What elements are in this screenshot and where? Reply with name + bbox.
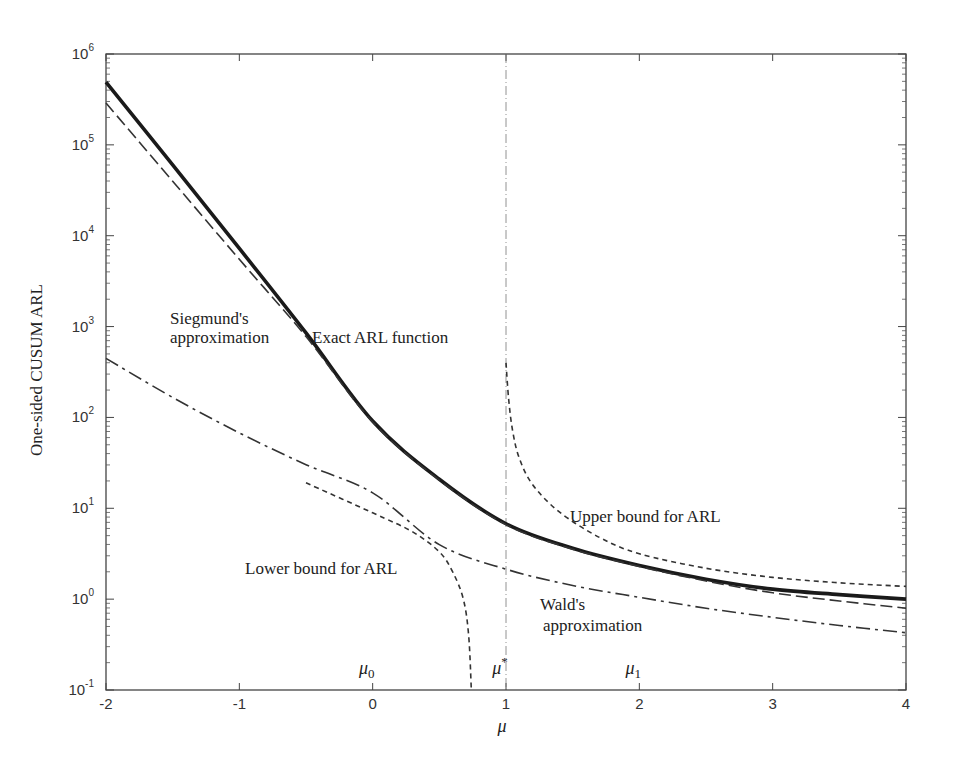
- y-tick-label: 102: [72, 405, 95, 425]
- plot-axes: -2-10123410-1100101102103104105106: [68, 42, 910, 712]
- curve-annotation: approximation: [543, 616, 643, 635]
- curve-annotation: Exact ARL function: [312, 328, 449, 347]
- y-axis-label: One-sided CUSUM ARL: [27, 284, 46, 456]
- y-tick-label: 105: [72, 133, 95, 153]
- x-tick-label: 2: [635, 695, 643, 712]
- y-tick-label: 104: [72, 224, 95, 244]
- x-tick-label: -2: [99, 695, 112, 712]
- curve-annotation: Lower bound for ARL: [245, 559, 398, 578]
- y-tick-label: 106: [72, 42, 95, 62]
- y-tick-label: 10-1: [68, 678, 94, 698]
- x-tick-label: 4: [902, 695, 910, 712]
- x-tick-label: 0: [368, 695, 376, 712]
- x-axis-label: μ: [496, 716, 506, 736]
- mu-marker-label: μ0: [358, 658, 375, 681]
- x-tick-label: 1: [502, 695, 510, 712]
- y-tick-label: 100: [72, 587, 95, 607]
- curve-annotation: approximation: [170, 328, 270, 347]
- curve-annotation: Wald's: [540, 595, 585, 614]
- lower-bound-for-arl-curve: [306, 483, 471, 690]
- x-tick-label: -1: [233, 695, 246, 712]
- mu-marker-label: μ1: [625, 658, 642, 681]
- mu-marker-label: μ*: [491, 654, 508, 678]
- curve-annotation: Upper bound for ARL: [570, 507, 721, 526]
- y-tick-label: 103: [72, 315, 95, 335]
- x-tick-label: 3: [768, 695, 776, 712]
- upper-bound-for-arl-curve: [506, 363, 906, 587]
- arl-chart: -2-10123410-1100101102103104105106 Siegm…: [0, 0, 957, 773]
- curve-annotation: Siegmund's: [170, 309, 249, 328]
- y-tick-label: 101: [72, 496, 95, 516]
- annotations: Siegmund'sapproximationExact ARL functio…: [170, 309, 721, 681]
